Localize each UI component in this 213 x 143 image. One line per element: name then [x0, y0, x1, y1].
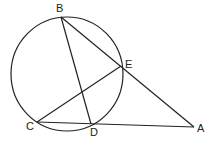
segment-BA [61, 17, 194, 127]
point-label-D: D [90, 126, 98, 138]
segments [37, 17, 194, 127]
circle [11, 17, 123, 131]
point-label-B: B [56, 2, 63, 14]
segment-CE [37, 66, 121, 122]
segment-CA [37, 122, 194, 127]
point-label-E: E [125, 58, 132, 70]
point-label-A: A [197, 122, 205, 134]
geometry-diagram: BECDA [0, 0, 213, 143]
segment-BD [61, 17, 91, 124]
point-label-C: C [26, 120, 34, 132]
